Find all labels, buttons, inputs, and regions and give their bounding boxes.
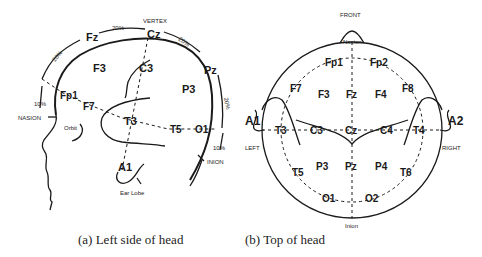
electrode-f8: F8 [402,83,414,94]
electrode-t4: T4 [413,125,425,136]
electrode-a1: A1 [118,161,132,173]
eeg-10-20-diagram: 20% 20% 20% 20% 10% 10% VERTEX NASION IN… [0,0,482,257]
right-label: RIGHT [442,145,461,151]
electrode-fp2: Fp2 [370,57,388,68]
electrode-o2: O2 [365,193,379,204]
front-label: FRONT [340,12,361,18]
electrode-f7: F7 [290,83,302,94]
inion-label: INION [207,159,224,165]
caption-b: (b) Top of head [245,232,325,248]
electrode-f4: F4 [375,89,387,100]
electrode-p4: P4 [375,161,388,172]
electrode-p3: P3 [182,83,195,95]
face-profile [42,115,56,210]
pct-nasion-fp: 10% [34,101,47,107]
nasion-top-label: Nasion [343,39,362,45]
side-view: 20% 20% 20% 20% 10% 10% VERTEX NASION IN… [18,18,231,210]
electrode-pz: Pz [204,64,217,76]
electrode-fz: Fz [86,31,99,43]
electrode-cz: Cz [345,125,357,136]
electrode-t6: T6 [400,167,412,178]
electrode-f7: F7 [83,101,95,112]
pct-o-inion: 10% [213,145,226,151]
caption-a: (a) Left side of head [78,232,183,248]
pct-fz-cz: 20% [112,25,125,31]
electrode-t5: T5 [292,167,304,178]
electrode-fz: Fz [346,89,357,100]
arc-pz-o [218,75,223,128]
electrode-t3: T3 [124,115,137,127]
electrode-c4: C4 [380,125,393,136]
electrode-t3: T3 [275,125,287,136]
electrode-f3: F3 [93,62,106,74]
pct-pz-o: 20% [223,97,231,111]
cz-a1-line [122,38,148,170]
electrode-c3: C3 [310,125,323,136]
nasion-label: NASION [18,115,41,121]
electrode-o1: O1 [195,124,209,135]
electrode-t5: T5 [170,124,182,135]
electrode-p3: P3 [316,161,329,172]
top-view: FRONT Nasion Inion LEFT RIGHT Fp1 Fp2 F7… [245,12,464,229]
vertex-label: VERTEX [143,18,167,24]
ear-lobe-label: Ear Lobe [120,190,145,196]
electrode-f3: F3 [318,89,330,100]
orbit-label: Orbit [64,125,77,131]
left-label: LEFT [245,145,260,151]
inion-top-label: Inion [345,223,358,229]
electrode-o1: O1 [322,193,336,204]
electrode-fp1: Fp1 [60,90,78,101]
inion-curve [190,160,202,186]
electrode-a1: A1 [245,114,261,128]
ear-lobe-pointer [137,178,141,184]
electrode-a2: A2 [448,114,464,128]
electrode-cz: Cz [147,28,161,40]
electrode-fp1: Fp1 [325,57,343,68]
electrode-c3: C3 [139,62,153,74]
electrode-pz: Pz [345,161,357,172]
